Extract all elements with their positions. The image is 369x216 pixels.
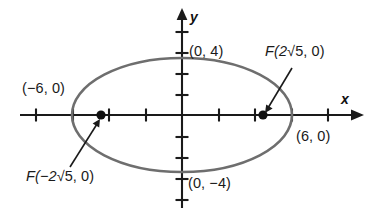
x-axis-arrow-icon <box>351 110 364 121</box>
radical-icon-left: √ <box>57 169 65 184</box>
radical-icon: √ <box>287 44 295 59</box>
y-axis-label: y <box>190 10 198 24</box>
right-focus-suffix: , 0) <box>303 43 324 59</box>
left-focus-radicand: 5 <box>65 168 73 184</box>
top-vertex-label: (0, 4) <box>189 44 223 59</box>
left-focus-suffix: , 0) <box>73 168 94 184</box>
left-focus-label: F(−2√5, 0) <box>26 169 94 184</box>
leader-line-right-focus <box>265 68 292 113</box>
right-focus-label: F(2√5, 0) <box>265 44 325 59</box>
right-vertex-label: (6, 0) <box>296 129 330 144</box>
x-axis-label: x <box>341 92 349 106</box>
bottom-vertex-label: (0, −4) <box>188 176 231 191</box>
y-axis-arrow-icon <box>177 8 188 20</box>
left-vertex-label: (−6, 0) <box>22 81 65 96</box>
ellipse-figure: y x (0, 4) (0, −4) (−6, 0) (6, 0) F(2√5,… <box>0 0 369 216</box>
focus-point-left <box>96 110 105 119</box>
right-focus-prefix: F(2 <box>265 43 287 59</box>
left-focus-prefix: F(−2 <box>26 168 57 184</box>
